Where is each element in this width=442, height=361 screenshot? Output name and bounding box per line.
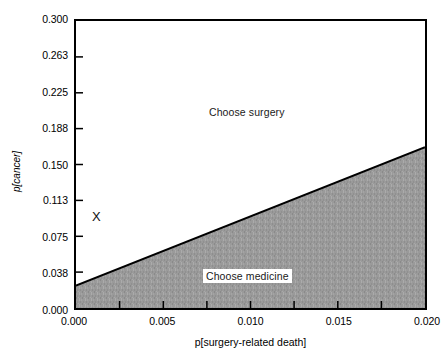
- y-axis-inner-ticks: [76, 57, 83, 272]
- x-axis-title: p[surgery-related death]: [74, 336, 427, 348]
- y-tick-label: 0.263: [30, 49, 68, 61]
- y-axis-title: p[cancer]: [11, 168, 22, 192]
- plot-area: Choose surgery Choose medicine X: [74, 19, 427, 310]
- y-tick-label: 0.188: [30, 122, 68, 134]
- chart-page: 0.0000.0380.0750.1130.1500.1880.2250.263…: [0, 0, 442, 361]
- plot-svg: [76, 21, 425, 308]
- x-tick-label: 0.020: [414, 315, 440, 327]
- patient-point-marker: X: [92, 210, 101, 223]
- x-tick-label: 0.015: [326, 315, 352, 327]
- x-axis-tick-labels: 0.0000.0050.0100.0150.020: [74, 315, 427, 331]
- x-tick-label: 0.005: [149, 315, 175, 327]
- y-tick-label: 0.075: [30, 231, 68, 243]
- x-tick-label: 0.010: [238, 315, 264, 327]
- choose-surgery-label: Choose surgery: [209, 106, 285, 118]
- choose-medicine-label: Choose medicine: [203, 269, 292, 283]
- y-tick-label: 0.300: [30, 13, 68, 25]
- choose-medicine-region: [76, 147, 425, 308]
- y-axis-tick-labels: 0.0000.0380.0750.1130.1500.1880.2250.263…: [28, 19, 68, 310]
- y-tick-label: 0.038: [30, 267, 68, 279]
- y-tick-label: 0.150: [30, 159, 68, 171]
- y-tick-label: 0.225: [30, 86, 68, 98]
- y-tick-label: 0.113: [30, 194, 68, 206]
- x-tick-label: 0.000: [61, 315, 87, 327]
